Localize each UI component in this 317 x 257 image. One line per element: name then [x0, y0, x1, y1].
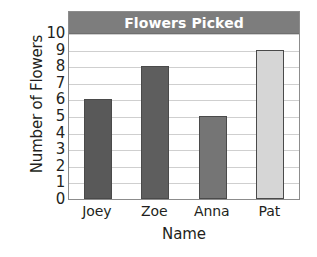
x-axis-tick-labels: JoeyZoeAnnaPat	[68, 202, 300, 222]
chart-title-banner: Flowers Picked	[69, 12, 299, 34]
y-axis-tick-label: 5	[40, 109, 65, 124]
y-axis-tick-label: 1	[40, 175, 65, 190]
bar	[256, 50, 284, 199]
x-axis-tick-label: Joey	[68, 202, 126, 220]
y-axis-tick-labels: 012345678910	[40, 24, 65, 208]
y-axis-tick-label: 6	[40, 92, 65, 107]
x-axis-title: Name	[68, 225, 300, 243]
plot-frame: Flowers Picked	[68, 11, 300, 200]
y-axis-tick-label: 8	[40, 59, 65, 74]
x-axis-tick-label: Zoe	[126, 202, 184, 220]
plot-area	[69, 34, 299, 199]
y-axis-tick-label: 2	[40, 159, 65, 174]
bar	[84, 99, 112, 199]
bar	[199, 116, 227, 199]
y-axis-tick-label: 9	[40, 43, 65, 58]
y-axis-tick-label: 4	[40, 126, 65, 141]
y-axis-tick-label: 7	[40, 76, 65, 91]
chart-title: Flowers Picked	[124, 16, 244, 30]
bars-layer	[69, 34, 299, 199]
y-axis-tick-label: 10	[40, 26, 65, 41]
x-axis-tick-label: Pat	[241, 202, 299, 220]
y-axis-tick-label: 0	[40, 192, 65, 207]
y-axis-tick-label: 3	[40, 142, 65, 157]
bar-chart-figure: Flowers Picked Number of Flowers 0123456…	[0, 0, 317, 257]
bar	[141, 66, 169, 199]
x-axis-tick-label: Anna	[183, 202, 241, 220]
